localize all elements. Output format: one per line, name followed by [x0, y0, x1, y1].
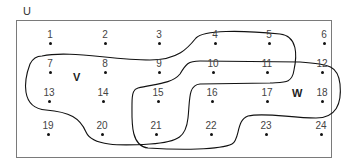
element-number: 16 — [206, 87, 217, 98]
element-dot-icon — [48, 100, 51, 103]
element-number: 24 — [315, 120, 326, 131]
element-point: 13 — [37, 88, 61, 103]
element-number: 6 — [321, 29, 327, 40]
element-dot-icon — [158, 42, 161, 45]
element-number: 15 — [152, 87, 163, 98]
element-number: 5 — [266, 29, 272, 40]
element-dot-icon — [212, 71, 215, 74]
element-number: 1 — [47, 29, 53, 40]
element-point: 6 — [312, 30, 336, 45]
element-point: 1 — [38, 30, 62, 45]
element-point: 12 — [310, 59, 334, 74]
set-v-label: V — [73, 71, 80, 83]
element-point: 18 — [310, 88, 334, 103]
element-point: 22 — [199, 121, 223, 136]
element-number: 11 — [262, 58, 272, 69]
element-dot-icon — [321, 71, 324, 74]
element-number: 18 — [316, 87, 327, 98]
element-number: 13 — [43, 87, 54, 98]
element-point: 11 — [255, 59, 279, 74]
element-dot-icon — [211, 100, 214, 103]
element-number: 12 — [316, 58, 327, 69]
element-point: 15 — [146, 88, 170, 103]
set-w-label: W — [292, 87, 302, 99]
element-number: 19 — [42, 120, 53, 131]
element-point: 17 — [255, 88, 279, 103]
element-dot-icon — [320, 133, 323, 136]
element-number: 17 — [261, 87, 272, 98]
element-number: 10 — [207, 58, 218, 69]
element-number: 7 — [47, 58, 53, 69]
element-dot-icon — [102, 100, 105, 103]
element-number: 21 — [150, 120, 161, 131]
element-dot-icon — [157, 100, 160, 103]
element-dot-icon — [210, 133, 213, 136]
element-point: 21 — [144, 121, 168, 136]
element-dot-icon — [49, 71, 52, 74]
element-point: 4 — [203, 30, 227, 45]
element-number: 9 — [156, 58, 162, 69]
element-point: 2 — [93, 30, 117, 45]
element-dot-icon — [323, 42, 326, 45]
element-number: 2 — [102, 29, 108, 40]
element-point: 9 — [147, 59, 171, 74]
element-point: 16 — [200, 88, 224, 103]
element-point: 14 — [91, 88, 115, 103]
element-number: 20 — [96, 120, 107, 131]
element-dot-icon — [49, 42, 52, 45]
element-point: 10 — [201, 59, 225, 74]
venn-diagram: U V W 1234567891011121314151617181920212… — [0, 0, 355, 168]
element-dot-icon — [266, 100, 269, 103]
element-point: 3 — [147, 30, 171, 45]
element-dot-icon — [101, 133, 104, 136]
element-point: 23 — [254, 121, 278, 136]
element-dot-icon — [104, 71, 107, 74]
element-dot-icon — [214, 42, 217, 45]
element-dot-icon — [268, 42, 271, 45]
element-point: 24 — [309, 121, 333, 136]
element-dot-icon — [104, 42, 107, 45]
element-number: 3 — [156, 29, 162, 40]
element-point: 5 — [257, 30, 281, 45]
element-dot-icon — [47, 133, 50, 136]
element-dot-icon — [158, 71, 161, 74]
element-point: 8 — [93, 59, 117, 74]
element-number: 8 — [102, 58, 108, 69]
element-number: 4 — [212, 29, 218, 40]
element-dot-icon — [321, 100, 324, 103]
element-dot-icon — [155, 133, 158, 136]
set-curves — [0, 0, 355, 168]
element-point: 19 — [36, 121, 60, 136]
element-number: 22 — [205, 120, 216, 131]
element-dot-icon — [266, 71, 269, 74]
element-number: 14 — [97, 87, 108, 98]
element-point: 7 — [38, 59, 62, 74]
element-point: 20 — [90, 121, 114, 136]
element-dot-icon — [265, 133, 268, 136]
element-number: 23 — [260, 120, 271, 131]
